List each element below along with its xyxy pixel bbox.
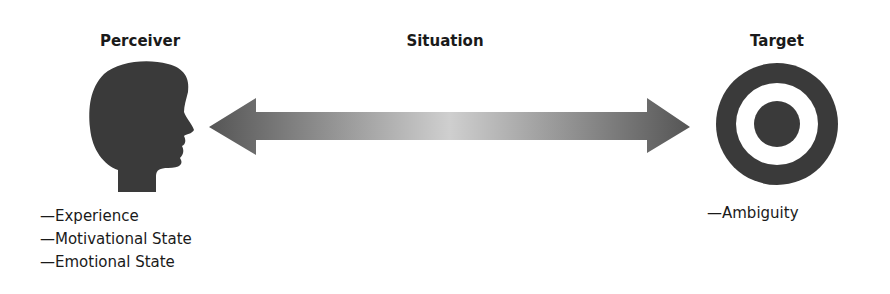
target-factor-ambiguity: —Ambiguity: [707, 203, 799, 223]
perceiver-title: Perceiver: [90, 32, 190, 50]
double-arrow-icon: [209, 98, 690, 155]
situation-title: Situation: [380, 32, 510, 50]
bullseye-icon: [716, 63, 838, 185]
perceiver-factor-motivational-state: —Motivational State: [40, 229, 192, 249]
target-title: Target: [727, 32, 827, 50]
perceiver-factor-experience: —Experience: [40, 206, 139, 226]
head-silhouette-icon: [89, 61, 194, 192]
perceiver-factor-emotional-state: —Emotional State: [40, 252, 175, 272]
